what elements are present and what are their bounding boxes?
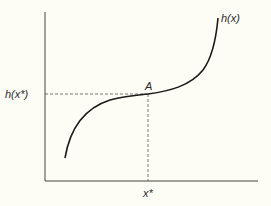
diagram-canvas: h(x) h(x*) x* A	[0, 0, 271, 206]
curve-label: h(x)	[221, 12, 240, 24]
curve-h-x	[65, 18, 218, 158]
point-a-label: A	[144, 80, 152, 92]
y-axis-marker-label: h(x*)	[5, 88, 29, 100]
x-axis-marker-label: x*	[142, 187, 154, 199]
